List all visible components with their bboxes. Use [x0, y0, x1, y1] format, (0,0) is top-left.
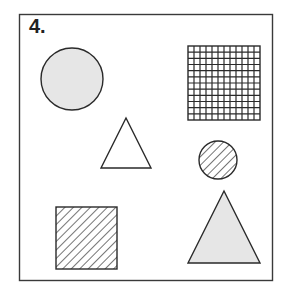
figure-number-label: 4.: [29, 16, 46, 36]
white-triangle: [101, 118, 151, 168]
hatched-square: [56, 207, 117, 269]
hatched-circle: [199, 141, 237, 179]
grid-square: [188, 46, 260, 120]
gray-circle: [41, 48, 103, 110]
gray-triangle: [188, 191, 260, 263]
figure-panel: 4.: [0, 0, 288, 299]
figure-canvas: [0, 0, 288, 299]
